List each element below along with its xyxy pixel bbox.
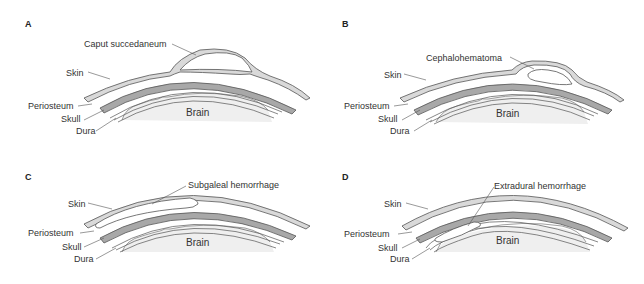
lesion-label: Subgaleal hemorrhage xyxy=(188,180,279,190)
panel-c-subgaleal-hemorrhage: C Subgaleal hemorrhage Skin Periosteum S… xyxy=(0,142,322,284)
panel-a-illustration xyxy=(0,0,322,142)
panel-a-caput-succedaneum: A Caput succedaneum Skin Periosteum Skul… xyxy=(0,0,322,142)
brain-label: Brain xyxy=(186,237,209,248)
skull-label: Skull xyxy=(61,114,81,124)
periosteum-label: Periosteum xyxy=(344,101,390,111)
skull-label: Skull xyxy=(62,242,82,252)
periosteum-label: Periosteum xyxy=(344,229,390,239)
dura-label: Dura xyxy=(74,254,94,264)
brain-label: Brain xyxy=(496,108,519,119)
skull-label: Skull xyxy=(378,114,398,124)
lesion-label: Cephalohematoma xyxy=(426,53,502,63)
dura-label: Dura xyxy=(390,254,410,264)
periosteum-label: Periosteum xyxy=(28,228,74,238)
dura-label: Dura xyxy=(76,126,96,136)
panel-letter: B xyxy=(342,19,349,29)
skin-label: Skin xyxy=(384,70,402,80)
lesion-label: Caput succedaneum xyxy=(84,39,167,49)
panel-letter: D xyxy=(342,172,349,182)
panel-d-illustration xyxy=(322,142,644,284)
skin-label: Skin xyxy=(66,68,84,78)
panel-d-extradural-hemorrhage: D Extradural hemorrhage Skin Periosteum … xyxy=(322,142,644,284)
skin-label: Skin xyxy=(384,199,402,209)
lesion-label: Extradural hemorrhage xyxy=(494,181,586,191)
panel-b-cephalohematoma: B Cephalohematoma Skin Periosteum Skull … xyxy=(322,0,644,142)
skull-label: Skull xyxy=(378,243,398,253)
brain-label: Brain xyxy=(496,235,519,246)
panel-c-illustration xyxy=(0,142,322,284)
panel-letter: A xyxy=(25,19,32,29)
skin-label: Skin xyxy=(68,199,86,209)
dura-label: Dura xyxy=(390,126,410,136)
panel-b-illustration xyxy=(322,0,644,142)
panel-letter: C xyxy=(25,172,32,182)
brain-label: Brain xyxy=(186,107,209,118)
periosteum-label: Periosteum xyxy=(28,101,74,111)
